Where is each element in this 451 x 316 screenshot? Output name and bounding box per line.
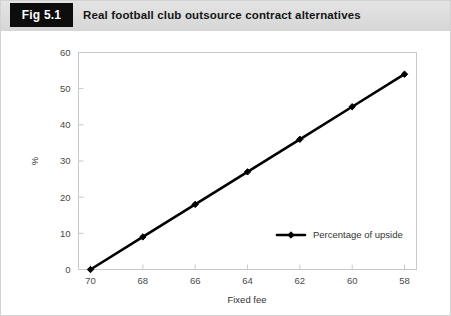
x-axis-tick-label: 64 (242, 275, 253, 286)
legend-item-label: Percentage of upside (313, 229, 403, 240)
x-axis-tick-label: 68 (138, 275, 149, 286)
figure-container: Fig 5.1 Real football club outsource con… (0, 0, 451, 316)
x-axis-tick-label: 70 (85, 275, 96, 286)
y-axis-tick-label: 60 (60, 47, 71, 58)
x-axis-title: Fixed fee (227, 294, 266, 305)
y-axis-tick-label: 50 (60, 83, 71, 94)
data-series-group (87, 71, 407, 273)
y-axis-ticks (79, 53, 84, 270)
x-axis-tick-labels: 70686664626058 (85, 275, 410, 286)
x-axis-tick-label: 66 (190, 275, 201, 286)
y-axis-tick-label: 20 (60, 192, 71, 203)
x-axis-tick-label: 62 (295, 275, 306, 286)
x-axis-tick-label: 58 (399, 275, 410, 286)
y-axis-tick-label: 30 (60, 155, 71, 166)
y-axis-tick-labels: 0102030405060 (60, 47, 71, 275)
line-chart: 0102030405060 70686664626058 Percentage … (0, 0, 451, 316)
x-axis-ticks (91, 265, 405, 270)
x-axis-tick-label: 60 (347, 275, 358, 286)
y-axis-tick-label: 40 (60, 119, 71, 130)
legend-marker-swatch (288, 232, 294, 238)
chart-legend: Percentage of upside (277, 229, 403, 240)
y-axis-tick-label: 0 (65, 264, 70, 275)
y-axis-tick-label: 10 (60, 228, 71, 239)
y-axis-title: % (29, 156, 40, 165)
